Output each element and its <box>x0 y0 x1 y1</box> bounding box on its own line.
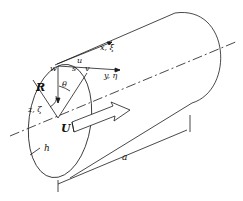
z-axis-label: z, ζ <box>28 106 42 114</box>
cylinder-bottom-edge <box>70 103 192 178</box>
v-label: v <box>85 65 90 73</box>
s-label: s <box>72 65 76 73</box>
thickness-label: h <box>44 144 50 153</box>
w-label: w <box>50 65 57 73</box>
x-axis-label: x, ξ <box>100 44 114 52</box>
cylinder-diagram: x, ξ u w s v y, η θ R z, ζ U h a <box>0 0 243 201</box>
y-axis-label: y, η <box>104 72 117 80</box>
diagram-drawing <box>0 0 243 201</box>
length-label: a <box>122 153 127 162</box>
flow-velocity-label: U <box>61 123 71 134</box>
theta-label: θ <box>62 81 67 89</box>
u-label: u <box>77 57 82 65</box>
radius-label: R <box>36 82 45 93</box>
